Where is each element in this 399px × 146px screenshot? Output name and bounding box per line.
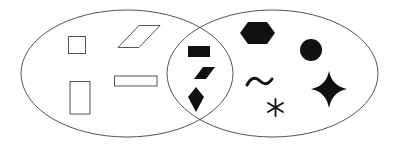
venn-svg xyxy=(0,0,399,146)
asterisk-icon xyxy=(268,99,283,116)
square-outline-icon xyxy=(69,37,86,54)
filled-parallelogram-icon xyxy=(194,67,215,79)
filled-four-point-star-icon xyxy=(311,71,347,108)
filled-hexagon-icon xyxy=(240,22,275,44)
parallelogram-outline-icon xyxy=(118,26,160,48)
filled-circle-icon xyxy=(300,39,322,61)
wide-rectangle-outline-icon xyxy=(115,76,158,86)
venn-diagram xyxy=(0,0,399,146)
tall-rectangle-outline-icon xyxy=(70,82,90,115)
tilde-icon xyxy=(247,78,272,85)
filled-rectangle-icon xyxy=(188,46,210,57)
filled-kite-icon xyxy=(188,87,204,112)
